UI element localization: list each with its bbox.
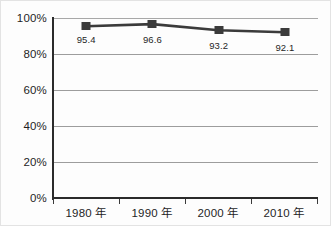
x-axis-label-1980: 1980 年 — [51, 204, 121, 220]
data-point-marker-3 — [280, 28, 289, 36]
x-axis-label-1990: 1990 年 — [117, 204, 187, 220]
gridline-60 — [53, 90, 318, 91]
data-point-marker-2 — [214, 26, 223, 34]
data-label-1: 96.6 — [122, 34, 182, 45]
y-axis-label-80: 80% — [1, 48, 47, 60]
gridline-100 — [53, 18, 318, 19]
data-point-marker-0 — [82, 22, 91, 30]
data-label-3: 92.1 — [255, 42, 315, 53]
gridline-20 — [53, 162, 318, 163]
y-axis-label-60: 60% — [1, 84, 47, 96]
gridline-40 — [53, 126, 318, 127]
line-chart: 100% 80% 60% 40% 20% 0% 1980 年 1990 年 20… — [0, 0, 331, 226]
data-label-2: 93.2 — [189, 40, 249, 51]
data-label-0: 95.4 — [56, 34, 116, 45]
gridline-80 — [53, 54, 318, 55]
y-axis-label-20: 20% — [1, 156, 47, 168]
y-axis-line — [52, 17, 54, 200]
x-axis-label-2000: 2000 年 — [183, 204, 253, 220]
y-axis-label-40: 40% — [1, 120, 47, 132]
x-axis-label-2010: 2010 年 — [249, 204, 319, 220]
y-axis-label-100: 100% — [1, 12, 47, 24]
data-point-marker-1 — [148, 20, 157, 28]
y-axis-label-0: 0% — [1, 192, 47, 204]
